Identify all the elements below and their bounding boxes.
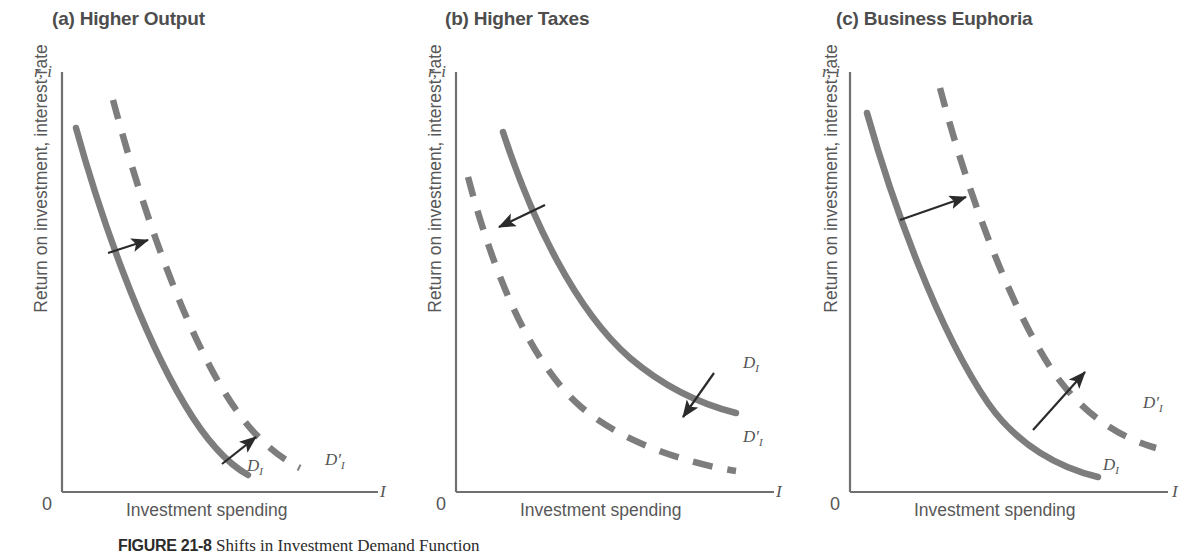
curve-initial-b <box>503 132 736 413</box>
figure-root: (a) Higher Output Return on investment, … <box>0 0 1193 557</box>
plot-area-a <box>0 0 395 530</box>
curve-initial-c <box>867 113 1098 477</box>
panel-higher-output: (a) Higher Output Return on investment, … <box>0 0 395 530</box>
figure-caption: FIGURE 21-8 Shifts in Investment Demand … <box>118 536 480 556</box>
curve-initial-a <box>76 128 248 475</box>
curve-shifted-c <box>940 88 1156 448</box>
shift-arrow-lower-a <box>222 437 256 464</box>
figure-caption-text: Shifts in Investment Demand Function <box>216 536 479 555</box>
plot-area-c <box>798 0 1193 530</box>
plot-area-b <box>400 0 795 530</box>
panel-business-euphoria: (c) Business Euphoria Return on investme… <box>798 0 1193 530</box>
shift-arrow-upper-c <box>900 197 966 220</box>
curve-shifted-a <box>113 100 300 468</box>
figure-caption-number: FIGURE 21-8 <box>118 537 212 554</box>
axes-a <box>62 72 378 492</box>
panel-higher-taxes: (b) Higher Taxes Return on investment, i… <box>400 0 795 530</box>
